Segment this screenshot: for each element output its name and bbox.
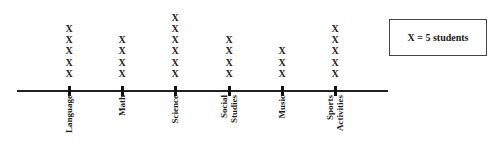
legend-box: X = 5 students [389, 19, 487, 56]
x-mark: X [169, 58, 181, 68]
x-mark: X [329, 69, 341, 79]
x-mark: X [223, 69, 235, 79]
category-label-sports-activities: Sports Activities [325, 95, 345, 143]
x-mark: X [329, 46, 341, 56]
x-mark: X [63, 69, 75, 79]
x-mark: X [329, 35, 341, 45]
x-mark: X [276, 69, 288, 79]
x-mark: X [169, 35, 181, 45]
x-mark: X [116, 69, 128, 79]
x-mark: X [276, 58, 288, 68]
x-mark: X [63, 58, 75, 68]
category-label-science: Science [170, 95, 180, 143]
x-mark: X [169, 69, 181, 79]
x-mark: X [329, 24, 341, 34]
x-mark: X [223, 35, 235, 45]
x-mark: X [169, 13, 181, 23]
x-mark: X [63, 46, 75, 56]
x-mark: X [169, 24, 181, 34]
x-mark: X [116, 46, 128, 56]
x-mark: X [329, 58, 341, 68]
x-mark: X [276, 46, 288, 56]
category-label-music: Music [277, 95, 287, 143]
x-mark: X [116, 58, 128, 68]
category-label-language: Language [64, 95, 74, 143]
category-label-math: Math [117, 95, 127, 143]
legend-text: X = 5 students [408, 32, 469, 43]
x-mark: X [169, 46, 181, 56]
x-axis-line [17, 90, 388, 92]
x-mark: X [63, 24, 75, 34]
x-mark: X [223, 46, 235, 56]
dot-plot: XXXXXXXXXXXXXXXXXXXXXXXXXXX LanguageMath… [0, 0, 504, 150]
x-mark: X [223, 58, 235, 68]
category-label-social-studies: Social Studies [219, 95, 239, 143]
x-mark: X [63, 35, 75, 45]
x-mark: X [116, 35, 128, 45]
